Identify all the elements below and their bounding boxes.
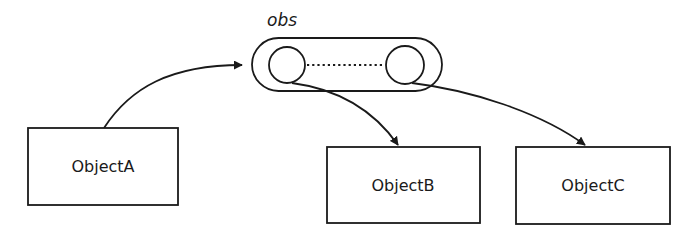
node-objecta[interactable]: ObjectA	[28, 128, 178, 205]
obs-slot-2[interactable]	[386, 46, 424, 84]
objecta-label: ObjectA	[71, 157, 134, 176]
edge-objecta-to-obs	[104, 65, 242, 128]
node-objectc[interactable]: ObjectC	[516, 147, 670, 224]
obs-slot-1[interactable]	[269, 47, 305, 83]
observer-diagram: obs ObjectA ObjectB ObjectC	[0, 0, 690, 239]
edge-obs-to-objectc	[412, 83, 585, 145]
obs-label: obs	[267, 10, 297, 30]
node-objectb[interactable]: ObjectB	[327, 147, 480, 223]
objectb-label: ObjectB	[371, 176, 434, 195]
objectc-label: ObjectC	[561, 176, 624, 195]
edge-obs-to-objectb	[292, 83, 398, 145]
